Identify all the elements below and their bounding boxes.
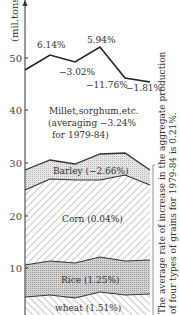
- barley-label: Barley (−2.66%): [53, 166, 129, 176]
- tick-10: 10: [9, 263, 22, 274]
- millet-label-3: for 1979-84): [52, 130, 109, 140]
- note-line-2: of four types of grains for 1979-84 is 0…: [168, 112, 178, 314]
- millet-label-1: Millet,sorghum,etc.: [49, 106, 139, 116]
- y-axis-arrow-icon: [23, 0, 28, 6]
- tick-40: 40: [9, 105, 22, 116]
- note-line-1: The average rate of increase in the aggr…: [157, 51, 167, 314]
- growth-label-1: 6.14%: [37, 40, 66, 50]
- growth-label-3: 5.94%: [87, 35, 116, 45]
- stacked-area-chart: 50 40 30 20 10 (mil.tons) 6.14% −3.02% 5…: [0, 0, 180, 315]
- tick-20: 20: [9, 211, 22, 222]
- growth-label-2: −3.02%: [59, 67, 96, 77]
- bracket: [153, 165, 155, 315]
- wheat-label: wheat (1.51%): [55, 303, 121, 313]
- tick-50: 50: [9, 53, 22, 64]
- rice-label: Rice (1.25%): [61, 275, 120, 285]
- y-axis-label: (mil.tons): [9, 0, 20, 42]
- growth-label-4: −11.76%: [86, 80, 128, 90]
- tick-30: 30: [9, 158, 22, 169]
- corn-label: Corn (0.04%): [62, 214, 123, 224]
- millet-label-2: (averaging −3.24%: [48, 118, 137, 128]
